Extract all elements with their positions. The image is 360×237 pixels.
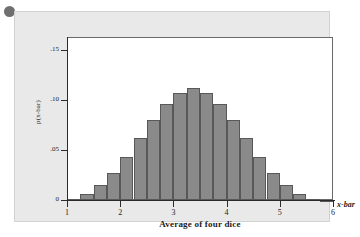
y-axis-line — [67, 37, 68, 201]
y-axis-tick — [61, 100, 67, 101]
figure-card: 0.05.10.15 123456 p(x-bar) Average of fo… — [14, 11, 330, 222]
x-axis-tick — [227, 201, 228, 207]
x-axis-line — [67, 200, 335, 201]
plot-panel — [67, 37, 333, 200]
x-axis-tick-label: 2 — [112, 208, 128, 217]
y-axis-tick — [61, 150, 67, 151]
x-axis-tick — [173, 201, 174, 207]
y-axis-title: p(x-bar) — [34, 82, 42, 142]
x-axis-title: Average of four dice — [67, 219, 333, 229]
x-axis-tick — [67, 201, 68, 207]
x-axis-tick-label: 4 — [219, 208, 235, 217]
y-axis-tick-label-wrap: .15 — [31, 46, 59, 54]
y-axis-tick — [61, 50, 67, 51]
x-axis-tick — [120, 201, 121, 207]
x-axis-tick-label: 1 — [59, 208, 75, 217]
y-axis-tick-label-wrap: .05 — [31, 146, 59, 154]
y-axis-tick-label: .15 — [33, 46, 59, 53]
x-axis-tick-label: 5 — [272, 208, 288, 217]
y-axis-tick-label-wrap: 0 — [31, 196, 59, 204]
x-axis-tick-label: 6 — [325, 208, 341, 217]
y-axis-tick-label: 0 — [33, 196, 59, 203]
x-axis-tick-label: 3 — [165, 208, 181, 217]
x-axis-tick — [333, 201, 334, 207]
y-axis-tick-label: .05 — [33, 146, 59, 153]
x-variable-label: x-bar — [337, 200, 355, 209]
x-axis-tick — [280, 201, 281, 207]
